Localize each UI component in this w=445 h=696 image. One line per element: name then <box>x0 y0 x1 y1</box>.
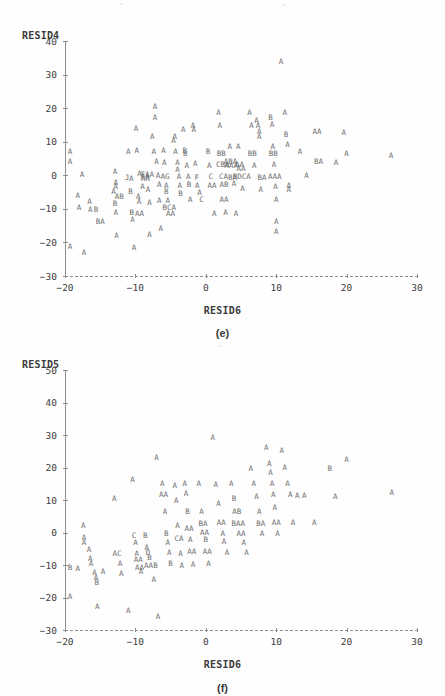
y-tick <box>63 403 68 404</box>
x-tick-label: 10 <box>256 282 296 293</box>
data-point-mark: A <box>182 480 187 488</box>
x-tick-label: 20 <box>327 636 367 647</box>
data-point-mark: AA <box>166 210 175 218</box>
data-point-mark: A <box>267 460 272 468</box>
data-point-mark: A <box>75 565 80 573</box>
data-point-mark: AA <box>141 173 150 181</box>
plot-area-f: BAAAAAAAAAABAAAACAAAACAAAAAAABADBAABAAAA… <box>0 348 445 648</box>
figure-page: RESID4 AAAAAAAAABBAAAAABAAABJAABBAAAAAAA… <box>0 0 445 696</box>
data-point-mark: B <box>206 148 211 156</box>
data-point-mark: A <box>196 481 201 489</box>
data-point-mark: A <box>175 159 180 167</box>
x-tick <box>417 628 418 632</box>
data-point-mark: A <box>80 171 85 179</box>
data-point-mark: A <box>144 544 149 552</box>
y-tick <box>63 435 68 436</box>
data-point-mark: AAA <box>224 162 238 170</box>
panel-label-e: (e) <box>0 327 445 339</box>
plot-area-e: AAAAAAAAABBAAAAABAAABJAABBAAAAAAAAAAAAAA… <box>0 0 445 300</box>
y-tick <box>63 209 68 210</box>
x-tick <box>65 274 66 278</box>
data-point-mark: A <box>304 172 309 180</box>
x-axis-title-e: RESID6 <box>0 305 445 316</box>
data-point-mark: BB <box>269 150 278 158</box>
data-point-mark: B <box>327 465 332 473</box>
data-point-mark: A <box>273 183 278 191</box>
data-point-mark: A <box>151 148 156 156</box>
data-point-mark: A <box>282 109 287 117</box>
data-marks-e: AAAAAAAAABBAAAAABAAABJAABBAAAAAAAAAAAAAA… <box>0 0 445 300</box>
data-point-mark: A <box>288 492 293 500</box>
data-point-mark: A <box>132 244 137 252</box>
data-point-mark: A <box>285 481 290 489</box>
data-point-mark: A <box>216 500 221 508</box>
data-point-mark: A <box>199 508 204 516</box>
data-point-mark: CA <box>175 535 184 543</box>
y-tick <box>63 370 68 371</box>
data-point-mark: C <box>199 197 204 205</box>
data-point-mark: A <box>216 109 221 117</box>
data-point-mark: A <box>268 469 273 477</box>
x-tick-label: −10 <box>115 636 155 647</box>
y-tick <box>63 565 68 566</box>
data-point-mark: A <box>94 574 99 582</box>
data-point-mark: A <box>113 168 118 176</box>
data-point-mark: A <box>147 199 152 207</box>
data-point-mark: A <box>192 127 197 135</box>
data-point-mark: A <box>184 490 189 498</box>
data-point-mark: A <box>220 530 225 538</box>
data-point-mark: A <box>140 183 145 191</box>
data-point-mark: A <box>154 158 159 166</box>
data-point-mark: B <box>187 182 192 190</box>
x-tick-label: 0 <box>186 282 226 293</box>
data-point-mark: CA <box>219 174 228 182</box>
data-point-mark: A <box>291 519 296 527</box>
data-point-mark: A <box>279 59 284 67</box>
data-point-mark: AA <box>313 129 322 137</box>
data-point-mark: B <box>128 189 133 197</box>
data-point-mark: BA <box>228 174 237 182</box>
data-point-mark: B <box>143 533 148 541</box>
data-point-mark: A <box>186 174 191 182</box>
data-point-mark: A <box>75 193 80 201</box>
y-tick-label: −10 <box>21 560 57 571</box>
data-point-mark: A <box>236 143 241 151</box>
data-point-mark: AC <box>113 550 122 558</box>
data-point-mark: A <box>274 228 279 236</box>
data-point-mark: B <box>182 147 187 155</box>
data-point-mark: ABA <box>224 158 238 166</box>
data-point-mark: A <box>77 204 82 212</box>
data-point-mark: A <box>212 210 217 218</box>
data-point-mark: A <box>211 434 216 442</box>
data-point-mark: F <box>194 175 199 183</box>
data-point-mark: A <box>242 539 247 547</box>
data-point-mark: A <box>298 148 303 156</box>
data-point-mark: A <box>264 444 269 452</box>
data-point-mark: A <box>173 133 178 141</box>
data-point-mark: A <box>137 170 142 178</box>
y-tick-label: 30 <box>21 430 57 441</box>
data-point-mark: A <box>139 568 144 576</box>
data-point-mark: A <box>272 161 277 169</box>
data-point-mark: A <box>185 162 190 170</box>
data-point-mark: A <box>270 121 275 129</box>
data-point-mark: AA <box>135 564 144 572</box>
data-point-mark: AA <box>134 557 143 565</box>
y-axis-line-e <box>65 41 66 276</box>
data-point-mark: AA <box>236 165 245 173</box>
data-point-mark: A <box>258 186 263 194</box>
data-point-mark: AA <box>184 525 193 533</box>
data-point-mark: A <box>334 159 339 167</box>
data-point-mark: A <box>88 206 93 214</box>
data-point-mark: A <box>207 162 212 170</box>
data-point-mark: D <box>146 549 151 557</box>
data-point-mark: A <box>275 530 280 538</box>
data-point-mark: A <box>282 464 287 472</box>
x-tick-label: 30 <box>397 282 437 293</box>
data-point-mark: A <box>126 148 131 156</box>
data-point-mark: AB <box>232 508 241 516</box>
y-tick-label: 30 <box>21 69 57 80</box>
chart-panel-f: RESID5 BAAAAAAAAAABAAAACAAAACAAAAAAABADB… <box>0 348 445 696</box>
x-axis-title-f: RESID6 <box>0 659 445 670</box>
data-point-mark: A <box>389 489 394 497</box>
